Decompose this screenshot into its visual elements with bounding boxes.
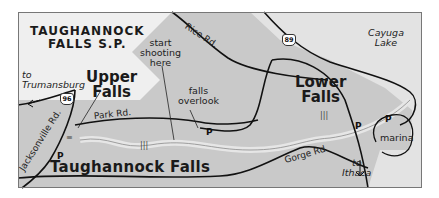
falls-symbol-icon: ||| bbox=[320, 111, 328, 120]
marina-label: marina bbox=[380, 133, 413, 143]
cayuga-lake-label: Cayuga Lake bbox=[368, 28, 404, 48]
upper-falls-label: Upper Falls bbox=[86, 70, 137, 100]
parking-icon: P bbox=[355, 122, 362, 131]
route-96-shield-icon: 96 bbox=[60, 93, 74, 105]
falls-symbol-icon: ≡ bbox=[66, 133, 73, 142]
lower-falls-label: Lower Falls bbox=[295, 75, 346, 105]
start-shooting-label: start shooting here bbox=[140, 38, 181, 68]
falls-overlook-label: falls overlook bbox=[178, 86, 219, 106]
parking-icon: P bbox=[385, 115, 392, 124]
falls-symbol-icon: ||| bbox=[140, 141, 148, 150]
to-ithaca-label: to Ithaca bbox=[342, 158, 371, 178]
parking-icon: P bbox=[206, 128, 213, 137]
route-89-shield-icon: 89 bbox=[282, 34, 296, 46]
park-title: TAUGHANNOCK FALLS S.P. bbox=[30, 25, 145, 50]
park-map: ||| ||| ≡ TAUGHANNOCK FALLS S.P. Upper F… bbox=[0, 0, 439, 198]
taughannock-falls-label: Taughannock Falls bbox=[50, 160, 210, 176]
to-trumansburg-label: to Trumansburg bbox=[22, 70, 85, 90]
parking-icon: P bbox=[57, 152, 64, 161]
